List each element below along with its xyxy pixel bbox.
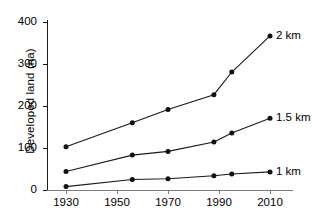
data-point	[130, 153, 135, 158]
data-point	[211, 92, 216, 97]
series-label-1p5km: 1.5 km	[276, 112, 311, 124]
data-point	[166, 176, 171, 181]
data-point	[211, 173, 216, 178]
chart-figure: Developed land (ha) 400 300 200 100 0 19…	[0, 0, 313, 219]
data-point	[268, 33, 273, 38]
data-point	[268, 116, 273, 121]
data-point	[229, 70, 234, 75]
data-point	[268, 169, 273, 174]
series-line-15km	[66, 118, 270, 171]
data-point	[166, 149, 171, 154]
data-point	[166, 107, 171, 112]
series-label-1km: 1 km	[276, 166, 301, 178]
data-point	[229, 130, 234, 135]
data-point	[64, 169, 69, 174]
data-point	[211, 140, 216, 145]
data-point	[64, 144, 69, 149]
series-label-2km: 2 km	[276, 30, 301, 42]
series-plot	[0, 0, 313, 219]
data-point	[130, 120, 135, 125]
data-point	[229, 172, 234, 177]
data-point	[130, 177, 135, 182]
data-point	[64, 184, 69, 189]
